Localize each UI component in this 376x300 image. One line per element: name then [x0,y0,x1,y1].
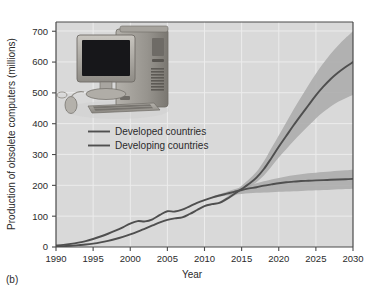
legend-label-developed: Developed countries [115,126,206,137]
y-tick-label: 600 [32,56,48,67]
x-tick-label: 1995 [83,253,104,264]
x-tick-label: 2005 [157,253,178,264]
monitor-stand [86,89,126,100]
computer-mouse [65,97,77,114]
x-tick-label: 2020 [268,253,289,264]
y-tick-label: 400 [32,118,48,129]
x-tick-label: 2015 [231,253,252,264]
y-tick-label: 700 [32,26,48,37]
panel-label: (b) [6,274,18,285]
y-tick-label: 100 [32,211,48,222]
x-tick-label: 1990 [45,253,66,264]
y-tick-label: 500 [32,87,48,98]
y-axis-title: Production of obsolete computers (millio… [6,38,17,230]
x-tick-label: 2025 [305,253,326,264]
y-tick-label: 300 [32,149,48,160]
x-tick-label: 2010 [194,253,215,264]
legend-label-developing: Developing countries [115,140,208,151]
x-tick-label: 2030 [342,253,363,264]
obsolete-computers-chart: Developed countries Developing countries… [0,0,376,300]
x-axis-title: Year [182,269,203,280]
x-tick-label: 2000 [120,253,141,264]
y-tick-label: 200 [32,180,48,191]
y-tick-label: 0 [43,241,48,252]
x-axis-tick-labels: 199019952000200520102015202020252030 [45,253,363,264]
figure-panel: Developed countries Developing countries… [0,0,376,300]
